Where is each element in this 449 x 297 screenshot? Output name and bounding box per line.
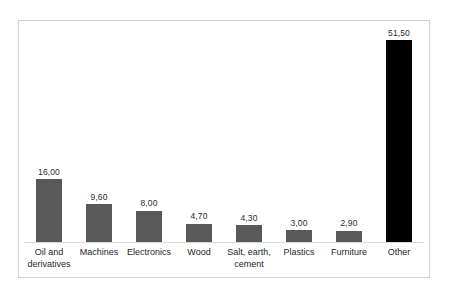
bar[interactable] (136, 211, 162, 242)
category-label: Machines (74, 247, 124, 270)
chart-frame: 16,009,608,004,704,303,002,9051,50 Oil a… (18, 20, 430, 278)
category-label-line: Salt, earth, (225, 247, 273, 259)
category-label: Wood (174, 247, 224, 270)
plot-area: 16,009,608,004,704,303,002,9051,50 (24, 27, 424, 242)
bar-slot: 16,00 (24, 27, 74, 242)
bar-slot: 51,50 (374, 27, 424, 242)
bar[interactable] (386, 40, 412, 242)
category-label-line: derivatives (25, 259, 73, 271)
category-label: Furniture (324, 247, 374, 270)
bar[interactable] (36, 179, 62, 242)
bar-slot: 8,00 (124, 27, 174, 242)
bar-series: 16,009,608,004,704,303,002,9051,50 (24, 27, 424, 242)
bar-slot: 4,30 (224, 27, 274, 242)
bar[interactable] (286, 230, 312, 242)
category-label-line: cement (225, 259, 273, 271)
category-label-line: Electronics (125, 247, 173, 259)
bar-value-label: 4,30 (241, 214, 258, 223)
bar[interactable] (336, 231, 362, 242)
bar-value-label: 3,00 (291, 219, 308, 228)
bar-slot: 9,60 (74, 27, 124, 242)
bar-slot: 2,90 (324, 27, 374, 242)
bar-value-label: 4,70 (191, 212, 208, 221)
category-label: Plastics (274, 247, 324, 270)
bar-value-label: 51,50 (388, 29, 410, 38)
bar-slot: 3,00 (274, 27, 324, 242)
bar-slot: 4,70 (174, 27, 224, 242)
category-label-line: Machines (75, 247, 123, 259)
bar[interactable] (186, 224, 212, 242)
bar-value-label: 16,00 (38, 168, 60, 177)
category-label-line: Other (375, 247, 423, 259)
category-label: Salt, earth,cement (224, 247, 274, 270)
bar-value-label: 9,60 (91, 193, 108, 202)
x-axis-line (24, 242, 424, 243)
category-label: Oil andderivatives (24, 247, 74, 270)
x-axis-category-labels: Oil andderivativesMachinesElectronicsWoo… (24, 247, 424, 270)
category-label-line: Plastics (275, 247, 323, 259)
bar-value-label: 8,00 (141, 199, 158, 208)
category-label: Electronics (124, 247, 174, 270)
category-label-line: Wood (175, 247, 223, 259)
bar[interactable] (86, 204, 112, 242)
category-label-line: Furniture (325, 247, 373, 259)
bar-value-label: 2,90 (341, 219, 358, 228)
bar[interactable] (236, 225, 262, 242)
category-label-line: Oil and (25, 247, 73, 259)
category-label: Other (374, 247, 424, 270)
